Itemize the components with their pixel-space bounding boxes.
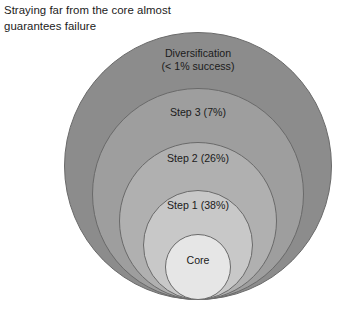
- ring-label-core: Core: [118, 254, 278, 267]
- ring-label-diversification: Diversification (< 1% success): [118, 47, 278, 73]
- concentric-circle-stack: Diversification (< 1% success) Step 3 (7…: [0, 0, 358, 316]
- ring-label-step-2: Step 2 (26%): [118, 152, 278, 165]
- ring-label-step-1: Step 1 (38%): [118, 199, 278, 212]
- figure-diversification-rings: Straying far from the core almost guaran…: [0, 0, 358, 316]
- ring-label-step-3: Step 3 (7%): [118, 106, 278, 119]
